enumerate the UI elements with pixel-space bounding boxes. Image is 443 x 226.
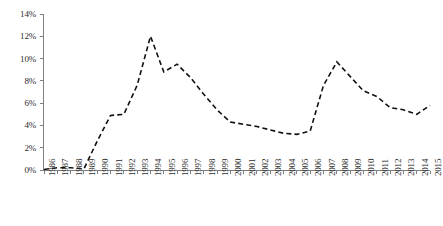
- x-tick-label: 1998: [208, 159, 217, 176]
- x-tick-label: 2002: [261, 159, 270, 176]
- x-tick-label: 2003: [274, 159, 283, 176]
- x-tick-label: 2007: [328, 159, 337, 176]
- x-tick-label: 1986: [48, 159, 57, 176]
- x-tick-label: 2005: [301, 159, 310, 176]
- x-tick-label: 1996: [181, 159, 190, 176]
- x-tick-label: 1999: [221, 159, 230, 176]
- x-tick-label: 1994: [154, 159, 163, 176]
- x-tick-label: 1988: [75, 159, 84, 176]
- x-tick-label: 2004: [288, 159, 297, 176]
- x-tick-label: 1993: [141, 159, 150, 176]
- x-tick-label: 1991: [115, 159, 124, 176]
- x-tick-label: 1992: [128, 159, 137, 176]
- x-tick-label: 1987: [61, 159, 70, 176]
- x-tick-label: 2013: [407, 159, 416, 176]
- x-tick-label: 2015: [434, 159, 443, 176]
- x-tick-label: 2010: [367, 159, 376, 176]
- x-tick-label: 1989: [88, 159, 97, 176]
- x-tick-label: 1997: [194, 159, 203, 176]
- x-tick-label: 2008: [341, 159, 350, 176]
- x-tick-label: 2009: [354, 159, 363, 176]
- x-tick-label: 2000: [234, 159, 243, 176]
- x-tick-label: 2011: [381, 159, 390, 176]
- x-tick-label: 2012: [394, 159, 403, 176]
- x-tick-label: 1995: [168, 159, 177, 176]
- x-tick-label: 2014: [421, 159, 430, 176]
- x-tick-label: 2006: [314, 159, 323, 176]
- x-tick-label: 1990: [101, 159, 110, 176]
- x-tick-label: 2001: [248, 159, 257, 176]
